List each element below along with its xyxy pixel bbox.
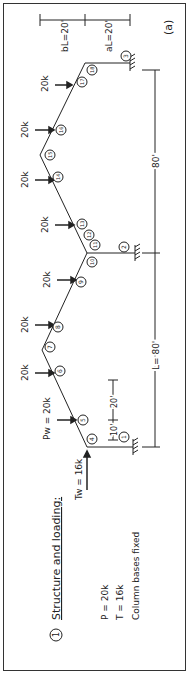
load-label: 20k (20, 171, 30, 188)
svg-text:9: 9 (77, 280, 84, 284)
svg-text:3: 3 (122, 54, 129, 58)
load-label: 20k (40, 75, 50, 92)
note-t: T = 16k (115, 584, 125, 621)
figure-label: (a) (162, 20, 175, 35)
node-14: 14 (53, 172, 63, 182)
dim-bL: bL=20' (60, 20, 70, 52)
svg-text:18: 18 (89, 67, 95, 73)
svg-text:5: 5 (79, 418, 86, 422)
svg-text:15: 15 (47, 152, 53, 158)
support-1-hatch (133, 438, 138, 455)
svg-text:4: 4 (88, 437, 95, 441)
svg-text:8: 8 (54, 325, 61, 329)
load-label: 20k (20, 121, 30, 138)
node-9: 9 (76, 277, 86, 287)
span-upper-label: 80' (151, 154, 161, 168)
svg-text:12: 12 (86, 232, 92, 238)
load-label: 20k (40, 216, 50, 233)
node-18: 18 (87, 65, 97, 75)
svg-text:10: 10 (89, 259, 95, 265)
dim-aL: aL=20' (104, 20, 114, 52)
load-label: 20k (20, 364, 30, 381)
span-lower-label: L= 80' (151, 341, 161, 370)
node-8: 8 (53, 322, 63, 332)
svg-text:6: 6 (56, 369, 63, 373)
col-dim-10: 10' (110, 424, 119, 436)
support-2-hatch (135, 244, 140, 261)
svg-text:2: 2 (120, 245, 127, 249)
svg-text:1: 1 (52, 632, 61, 637)
col-dim-20: 20' (110, 396, 119, 408)
tw-label: Tw = 16k (74, 458, 84, 501)
node-11: 11 (90, 240, 100, 250)
svg-text:17: 17 (79, 79, 85, 85)
node-13: 13 (77, 219, 87, 229)
svg-text:11: 11 (92, 242, 98, 248)
svg-text:7: 7 (46, 345, 53, 349)
node-15: 15 (45, 150, 55, 160)
svg-text:14: 14 (55, 174, 61, 180)
node-2: 2 (119, 242, 129, 252)
svg-text:1: 1 (120, 435, 127, 439)
frame-members (40, 63, 133, 447)
node-4: 4 (87, 434, 97, 444)
load-label: 20k (42, 271, 52, 288)
svg-text:13: 13 (79, 221, 85, 227)
node-3: 3 (121, 51, 131, 61)
section-title: Structure and loading: (50, 497, 63, 620)
node-6: 6 (55, 366, 65, 376)
section-number-badge: 1 (50, 629, 62, 641)
node-12: 12 (84, 230, 94, 240)
pw-label: Pw = 20k (42, 396, 52, 440)
structure-diagram: 20k 20k 20k 20k 20k 20k 20k Pw = 20k Tw … (0, 0, 191, 677)
node-1: 1 (119, 432, 129, 442)
svg-text:16: 16 (58, 127, 64, 133)
note-bases: Column bases fixed (131, 532, 141, 620)
node-5: 5 (78, 415, 88, 425)
load-label: 20k (20, 316, 30, 333)
node-17: 17 (77, 77, 87, 87)
node-10: 10 (87, 257, 97, 267)
note-p: P = 20k (100, 584, 110, 620)
node-7: 7 (45, 342, 55, 352)
node-16: 16 (56, 125, 66, 135)
